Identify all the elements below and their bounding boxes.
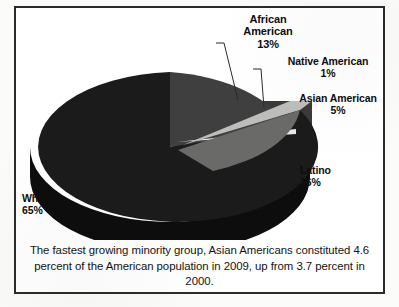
pie-chart-area: African American 13% Native American 1% … bbox=[0, 0, 399, 240]
label-white-percent: 65% bbox=[22, 205, 92, 217]
label-native-american-name: Native American bbox=[288, 55, 368, 67]
label-latino-percent: 16% bbox=[300, 177, 370, 189]
label-white-name: White bbox=[22, 192, 50, 204]
label-african-american-line1: African bbox=[249, 13, 286, 25]
figure-container: African American 13% Native American 1% … bbox=[0, 0, 399, 307]
figure-caption: The fastest growing minority group, Asia… bbox=[26, 243, 373, 290]
label-asian-american: Asian American 5% bbox=[286, 93, 390, 117]
label-asian-american-percent: 5% bbox=[286, 105, 390, 117]
label-native-american: Native American 1% bbox=[276, 56, 380, 80]
label-asian-american-name: Asian American bbox=[299, 92, 377, 104]
label-native-american-percent: 1% bbox=[276, 68, 380, 80]
label-latino: Latino 16% bbox=[300, 165, 370, 189]
label-white: White 65% bbox=[22, 193, 92, 217]
label-latino-name: Latino bbox=[300, 164, 331, 176]
label-african-american: African American 13% bbox=[231, 13, 305, 50]
label-african-american-line2: American bbox=[243, 25, 292, 37]
label-african-american-percent: 13% bbox=[231, 38, 305, 50]
